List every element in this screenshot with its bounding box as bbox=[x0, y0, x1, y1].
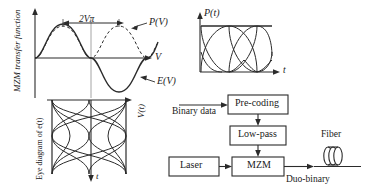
block-diagram: Binary data Pre-coding Low-pass Laser MZ… bbox=[168, 94, 365, 196]
vpi-span-right-arrowhead bbox=[117, 20, 124, 25]
optical-eye-diagram: P(t) t bbox=[182, 0, 365, 96]
optical-eye-y-axis-label: P(t) bbox=[204, 8, 220, 18]
lowpass-block-label[interactable]: Low-pass bbox=[238, 129, 277, 139]
vpi-span-label: 2Vπ bbox=[79, 15, 94, 25]
binary-data-label: Binary data bbox=[172, 107, 216, 117]
power-curve-label: P(V) bbox=[149, 17, 168, 27]
optical-eye-lower-lobe bbox=[229, 60, 257, 72]
duobinary-output-label: Duo-binary bbox=[286, 175, 330, 185]
optical-eye-lower-lobe bbox=[201, 52, 222, 72]
transfer-function-plot: MZM transfer function V 2Vπ P(V) E(V) bbox=[0, 0, 182, 98]
fiber-label: Fiber bbox=[321, 130, 341, 140]
field-curve-label: E(V) bbox=[157, 76, 176, 86]
drive-eye-canvas bbox=[0, 88, 182, 196]
duobinary-output-arrowhead bbox=[307, 164, 314, 170]
laser-to-mzm-arrowhead bbox=[225, 164, 232, 170]
optical-eye-trace bbox=[201, 26, 229, 72]
lowpass-to-mzm-arrowhead bbox=[255, 150, 261, 157]
drive-eye-x-axis-label: t bbox=[96, 172, 99, 181]
optical-eye-x-axis-arrowhead bbox=[273, 69, 280, 75]
optical-eye-x-axis-label: t bbox=[283, 66, 286, 76]
transfer-y-axis-label: MZM transfer function bbox=[13, 10, 22, 93]
mzm-block-label[interactable]: MZM bbox=[247, 160, 271, 170]
fiber-coil-icon bbox=[324, 147, 342, 165]
power-label-leader-arrowhead bbox=[131, 25, 138, 30]
transfer-y-axis-arrowhead bbox=[32, 8, 38, 15]
drive-eye-t-axis-arrowhead bbox=[88, 175, 94, 182]
binary-data-arrowhead bbox=[221, 102, 228, 108]
precoding-to-lowpass-arrowhead bbox=[255, 119, 261, 126]
drive-eye-diagram: Eye diagram of e(t) V(t) t bbox=[0, 88, 182, 196]
optical-eye-trace bbox=[257, 26, 272, 56]
drive-eye-y-axis-label: V(t) bbox=[137, 104, 146, 118]
precoding-block-label[interactable]: Pre-coding bbox=[235, 98, 279, 108]
optical-eye-y-axis-arrowhead bbox=[197, 12, 203, 19]
transfer-x-axis-label: V bbox=[155, 52, 161, 62]
laser-block-label[interactable]: Laser bbox=[180, 160, 202, 170]
optical-eye-lower-lobe bbox=[257, 60, 272, 72]
field-label-leader-arrowhead bbox=[140, 76, 147, 81]
figure-root: MZM transfer function V 2Vπ P(V) E(V) bbox=[0, 0, 365, 196]
drive-eye-caption: Eye diagram of e(t) bbox=[36, 118, 44, 180]
